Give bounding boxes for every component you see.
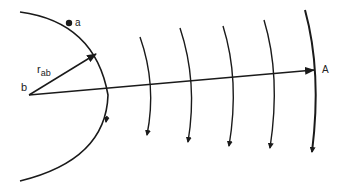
wavefront-2 [180,28,192,142]
point-A-label: A [322,64,329,75]
point-a-label: a [75,17,81,28]
wavefront-3 [223,26,233,146]
circle-direction-arrow-icon [106,116,107,122]
wavefront-4 [264,20,274,148]
wave-propagation-diagram: a rab b A [0,0,342,190]
r-ab-label: rab [37,63,51,78]
source-circle-arc [20,12,108,181]
b-to-A-vector [29,70,314,95]
wavefront-5 [305,10,316,152]
point-a-dot [66,20,72,26]
wavefront-1 [140,37,151,135]
point-b-label: b [21,81,27,93]
